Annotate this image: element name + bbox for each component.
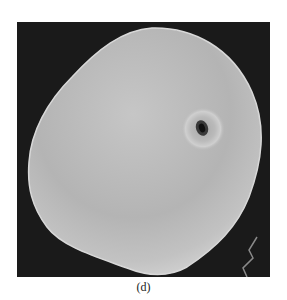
pollen-grain-illustration — [17, 22, 270, 277]
figure-caption: (d) — [0, 280, 287, 295]
micrograph-image — [17, 22, 270, 277]
